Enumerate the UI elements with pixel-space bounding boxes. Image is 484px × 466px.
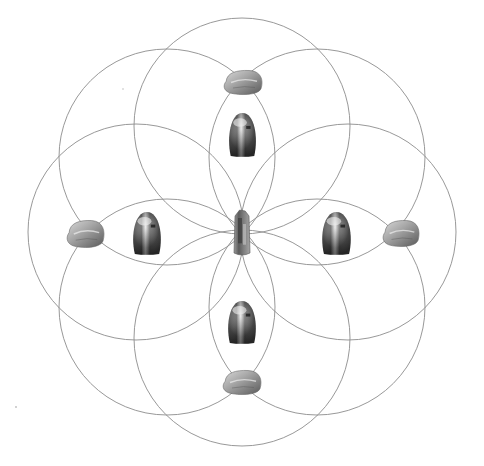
tumbled-stone-bottom [223, 370, 261, 394]
tumbled-stone-left [67, 220, 104, 247]
dome-stone-top [229, 113, 256, 157]
stray-speck [15, 406, 17, 408]
dome-stone-right [322, 212, 351, 255]
crystal-grid-diagram [0, 0, 484, 466]
dome-stone-left [133, 212, 161, 255]
tumbled-stone-right [383, 220, 419, 246]
stones-layer [67, 70, 419, 394]
center-quartz-crystal [234, 210, 250, 255]
tumbled-stone-top [224, 70, 262, 94]
stray-speck [122, 88, 124, 90]
dome-stone-bottom [228, 301, 256, 344]
